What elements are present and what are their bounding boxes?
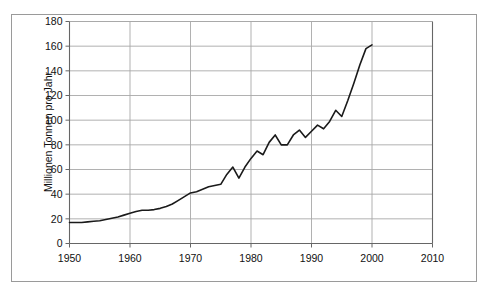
chart-figure: 020406080100120140160180 195019601970198… xyxy=(0,0,488,292)
x-tick-label: 1990 xyxy=(300,252,324,264)
x-tick-label: 2010 xyxy=(421,252,445,264)
x-tick-label: 1960 xyxy=(118,252,142,264)
vertical-gridlines xyxy=(130,22,372,244)
x-tick-label: 1950 xyxy=(58,252,82,264)
x-axis-tick-labels: 1950196019701980199020002010 xyxy=(58,252,445,264)
x-tick-label: 1980 xyxy=(239,252,263,264)
x-axis-ticks xyxy=(70,244,433,248)
y-axis-title: Millionen Tonnen pro Jahr xyxy=(42,71,54,192)
x-tick-label: 1970 xyxy=(179,252,203,264)
y-tick-label: 20 xyxy=(51,213,63,225)
y-tick-label: 0 xyxy=(57,237,63,249)
y-tick-label: 160 xyxy=(45,40,63,52)
data-series-line xyxy=(70,45,373,223)
line-chart: 020406080100120140160180 195019601970198… xyxy=(0,0,488,292)
y-axis-ticks xyxy=(66,22,70,244)
x-tick-label: 2000 xyxy=(360,252,384,264)
y-tick-label: 180 xyxy=(45,15,63,27)
